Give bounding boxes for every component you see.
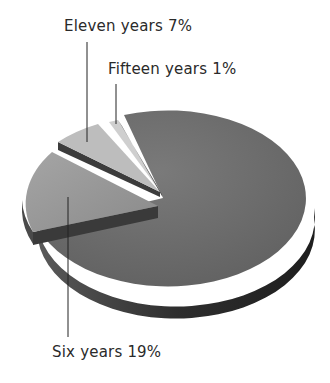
pie-chart	[0, 0, 330, 383]
label-eleven-years: Eleven years 7%	[64, 17, 192, 35]
label-fifteen-years: Fifteen years 1%	[108, 60, 236, 78]
label-six-years: Six years 19%	[52, 343, 161, 361]
